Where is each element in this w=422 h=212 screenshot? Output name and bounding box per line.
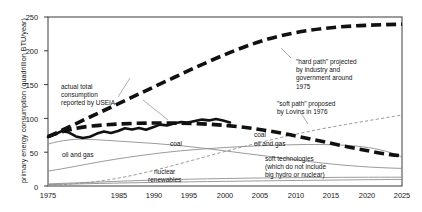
- series-label-oil-and-gas-right: oil and gas: [254, 140, 285, 148]
- annotation-soft-technologies: soft technologies (which do not include …: [265, 155, 326, 180]
- leader-line-actual-total: [118, 78, 130, 97]
- annotation-actual-total-consumption: actual total consumption reported by USE…: [61, 83, 115, 108]
- series-oil-and-gas: [48, 139, 402, 168]
- series-label-oil-and-gas-left: oil and gas: [62, 151, 93, 159]
- annotation-hard-path: "hard path" projected by industry and go…: [296, 58, 357, 91]
- series-label-coal-right: coal: [254, 131, 266, 139]
- series-nuclear: [48, 177, 402, 184]
- series-label-nuclear-renewables: nuclear renewables: [148, 168, 181, 184]
- energy-consumption-chart-figure: primary energy consumption (quadrillion …: [0, 0, 422, 212]
- annotation-soft-path: "soft path" proposed by Lovins in 1976: [277, 100, 335, 116]
- leader-line-soft-path-upper: [143, 100, 168, 120]
- leader-line-hard-path: [281, 48, 291, 58]
- series-label-coal-left: coal: [170, 140, 182, 148]
